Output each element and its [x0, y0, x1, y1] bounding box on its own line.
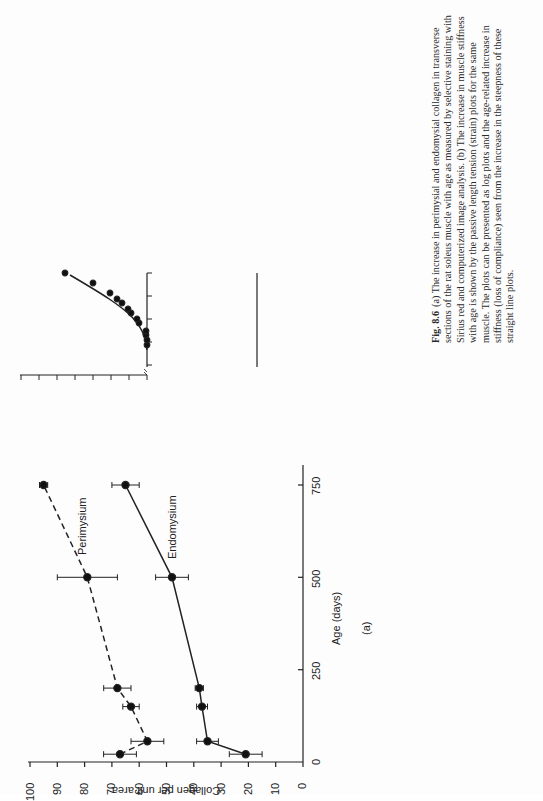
xtick-label: 750	[310, 477, 322, 495]
ytick-label: 80	[78, 783, 90, 795]
xtick-label: 500	[310, 570, 322, 588]
panel-a-x-axis-label: Age (days)	[330, 592, 342, 645]
panel-a-y-axis-label: Collagen per unit area	[112, 785, 220, 797]
ytick-label: 0	[296, 783, 308, 789]
figure-number: Fig. 8.6	[430, 311, 441, 343]
caption-text: (a) The increase in perimysial and endom…	[430, 15, 515, 343]
figure-caption: Fig. 8.6(a) The increase in perimysial a…	[430, 13, 517, 343]
ytick-label: 90	[51, 783, 63, 795]
endomysium-label: Endomysium	[166, 495, 178, 559]
xtick-label: 0	[310, 759, 322, 765]
perimysium-label: Perimysium	[76, 498, 88, 555]
panel-a-label: (a)	[360, 622, 372, 635]
ytick-label: 10	[269, 783, 281, 795]
ytick-label: 100	[24, 783, 36, 801]
xtick-label: 250	[310, 662, 322, 680]
ytick-label: 20	[242, 783, 254, 795]
